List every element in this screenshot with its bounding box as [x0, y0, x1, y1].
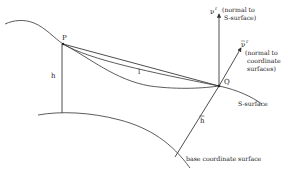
label-nu-bar-r-sup: r: [246, 39, 249, 44]
label-nu-r-sup: r: [215, 6, 218, 11]
segment-h-bar: [175, 86, 219, 157]
point-p-dot: [62, 43, 64, 45]
upper-coordinate-surface-curve: [5, 20, 262, 104]
label-s-surface: S-surface: [238, 100, 268, 107]
nu-bar-r-note-line2: coordinate: [247, 57, 281, 64]
label-nu-r: ν: [210, 8, 214, 16]
label-p: P: [62, 34, 67, 42]
label-q: Q: [224, 78, 230, 86]
base-coordinate-surface-curve: [38, 113, 190, 168]
label-nu-bar-r: ν: [241, 41, 245, 49]
nu-r-note-line1: (normal to: [222, 6, 255, 13]
nu-r-note-line2: S-surface): [224, 14, 256, 21]
label-h: h: [51, 72, 56, 80]
segment-l: [63, 44, 219, 86]
label-h-bar: h: [200, 117, 205, 125]
point-q-dot: [218, 85, 221, 88]
nu-bar-r-note-line3: surfaces): [247, 65, 276, 72]
normal-coordinate-arrow: [219, 48, 241, 86]
geometry-diagram: P Q h l h ν r (normal to S-surface) ν r …: [0, 0, 288, 177]
label-base-coordinate-surface: base coordinate surface: [186, 155, 262, 162]
nu-bar-r-note-line1: (normal to: [245, 49, 278, 56]
